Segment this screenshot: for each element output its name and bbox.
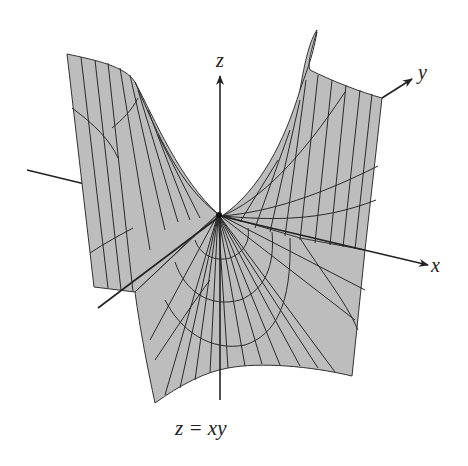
saddle-diagram: z y x z = xy xyxy=(0,0,468,466)
x-axis-label: x xyxy=(431,255,440,275)
y-axis-label: y xyxy=(418,62,427,82)
saddle-surface-graphic xyxy=(0,0,468,466)
z-axis-label: z xyxy=(216,50,224,70)
y-axis xyxy=(382,79,412,98)
origin-point xyxy=(216,212,222,218)
equation-caption: z = xy xyxy=(175,418,227,439)
